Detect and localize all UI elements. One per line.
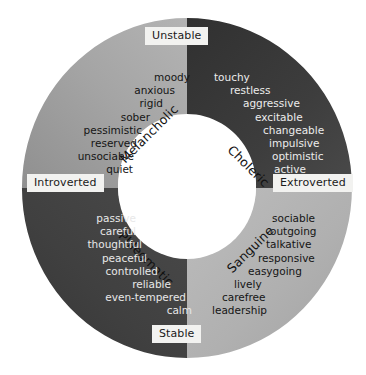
trait-word: talkative bbox=[212, 238, 366, 251]
trait-word: changeable bbox=[214, 124, 366, 137]
trait-word: outgoing bbox=[212, 225, 366, 238]
trait-word: lively bbox=[212, 278, 366, 291]
trait-word: calm bbox=[40, 304, 192, 317]
eysenck-temperament-figure: Melancholic Choleric Phlegmatic Sanguine… bbox=[0, 0, 366, 375]
trait-word: anxious bbox=[40, 84, 190, 97]
trait-word: even-tempered bbox=[40, 291, 192, 304]
trait-word: optimistic bbox=[214, 150, 366, 163]
trait-word: careful bbox=[40, 225, 192, 238]
trait-word: easygoing bbox=[212, 265, 366, 278]
trait-word: pessimistic bbox=[40, 124, 190, 137]
trait-list-choleric: touchy restless aggressive excitable cha… bbox=[214, 71, 366, 177]
axis-label-introverted: Introverted bbox=[27, 174, 104, 192]
trait-word: impulsive bbox=[214, 137, 366, 150]
trait-word: sociable bbox=[212, 212, 366, 225]
axis-label-unstable: Unstable bbox=[145, 27, 208, 45]
trait-word: rigid bbox=[40, 97, 190, 110]
trait-word: reliable bbox=[40, 278, 192, 291]
trait-word: responsive bbox=[212, 252, 366, 265]
trait-word: thoughtful bbox=[40, 238, 192, 251]
axis-label-extroverted: Extroverted bbox=[273, 174, 353, 192]
trait-word: passive bbox=[40, 212, 192, 225]
trait-word: carefree bbox=[212, 291, 366, 304]
trait-word: reserved bbox=[40, 137, 190, 150]
trait-word: aggressive bbox=[214, 97, 366, 110]
trait-list-phlegmatic: passive careful thoughtful peaceful cont… bbox=[40, 212, 192, 318]
trait-word: moody bbox=[40, 71, 190, 84]
trait-word: restless bbox=[214, 84, 366, 97]
trait-word: excitable bbox=[214, 111, 366, 124]
trait-word: sober bbox=[40, 111, 190, 124]
trait-word: unsociable bbox=[40, 150, 190, 163]
trait-word: peaceful bbox=[40, 252, 192, 265]
trait-list-melancholic: moody anxious rigid sober pessimistic re… bbox=[40, 71, 190, 177]
trait-list-sanguine: sociable outgoing talkative responsive e… bbox=[212, 212, 366, 318]
trait-word: leadership bbox=[212, 304, 366, 317]
axis-label-stable: Stable bbox=[152, 325, 201, 343]
trait-word: controlled bbox=[40, 265, 192, 278]
trait-word: touchy bbox=[214, 71, 366, 84]
